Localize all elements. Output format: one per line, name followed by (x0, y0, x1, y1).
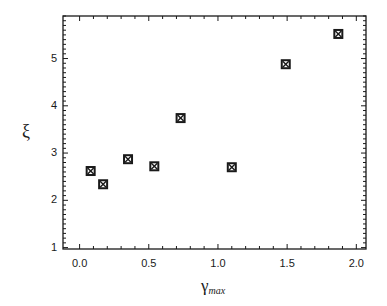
data-points (87, 30, 343, 188)
y-tick-label: 3 (51, 146, 57, 158)
x-axis-ticks: 0.00.51.01.52.0 (72, 16, 364, 269)
y-tick-label: 4 (51, 99, 57, 111)
y-tick-label: 2 (51, 193, 57, 205)
x-tick-label: 1.5 (279, 257, 294, 269)
data-point-marker (334, 30, 342, 38)
x-tick-label: 0.5 (141, 257, 156, 269)
scatter-chart: 0.00.51.01.52.0 12345 ξ γmax (0, 0, 387, 306)
data-point-marker (124, 155, 132, 163)
y-axis-title: ξ (22, 121, 30, 141)
y-axis-ticks: 12345 (51, 16, 366, 253)
x-tick-label: 2.0 (349, 257, 364, 269)
data-point-marker (150, 162, 158, 170)
data-point-marker (99, 180, 107, 188)
x-axis-title: γmax (200, 276, 226, 296)
y-tick-label: 1 (51, 241, 57, 253)
data-point-marker (228, 163, 236, 171)
y-tick-label: 5 (51, 52, 57, 64)
data-point-marker (87, 167, 95, 175)
data-point-marker (177, 114, 185, 122)
data-point-marker (282, 60, 290, 68)
x-tick-label: 0.0 (72, 257, 87, 269)
plot-frame (63, 16, 366, 249)
x-tick-label: 1.0 (210, 257, 225, 269)
x-axis-title-subscript: max (208, 285, 225, 296)
plot-border (63, 16, 366, 249)
